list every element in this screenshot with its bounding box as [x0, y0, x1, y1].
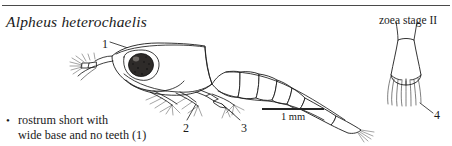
pereiopod-shaft [196, 92, 214, 101]
pereiopod-shaft-b [200, 90, 218, 99]
pereiopod-dactyl [214, 101, 226, 108]
caption-line-2: wide base and no teeth (1) [18, 128, 146, 143]
pereiopod-joint-1 [206, 94, 210, 96]
leader-line-3 [222, 104, 240, 120]
telson-inset-plate [391, 39, 421, 86]
top-divider-rule [2, 5, 450, 6]
carapace-dorsal-ridge [116, 45, 205, 54]
carapace-group [112, 43, 212, 95]
caudal-setae [358, 130, 374, 142]
maxilliped-base-plate [126, 80, 184, 91]
leader-line-2 [187, 104, 196, 120]
maxilliped-1-setae [146, 95, 180, 115]
compound-eye [129, 54, 154, 77]
exopod-setae [226, 105, 244, 115]
rostrum-base-lower [96, 61, 113, 66]
telson-inset-group [388, 22, 421, 106]
maxilliped-2-shaft-b [180, 92, 196, 102]
abdomen-somite-5 [287, 88, 305, 109]
compound-eye-group [124, 50, 159, 80]
maxilliped-2-setae [176, 98, 202, 116]
maxilliped-1-shaft-b [154, 91, 177, 104]
maxilliped-2-shaft [176, 93, 198, 106]
antennule-segment-2 [81, 63, 89, 68]
leader-line-1 [110, 42, 168, 52]
bullet-glyph: • [6, 113, 18, 128]
caption-line-1: rostrum short with [18, 113, 146, 128]
abdomen-somite-2 [238, 72, 259, 99]
leader-line-4 [420, 103, 433, 113]
antennal-scale [78, 66, 95, 76]
eye-socket [124, 50, 159, 80]
scale-bar: 1 mm [262, 108, 324, 123]
pereiopod-setae [222, 108, 234, 118]
scale-bar-label: 1 mm [262, 110, 324, 123]
larval-stage-label: zoea stage II [379, 14, 437, 27]
abdomen-group [212, 71, 374, 142]
abdomen-somite-4 [272, 80, 292, 104]
figure-root: Alpheus heterochaelis zoea stage II [0, 0, 452, 146]
telson-lobe-right [410, 75, 421, 80]
antennal-setae [70, 53, 95, 74]
telson-lobe-left [391, 75, 402, 80]
eye-stipple [132, 56, 149, 74]
rostrum-and-antennae-group [70, 53, 113, 80]
abdomen-somite-3 [256, 74, 277, 100]
telson-main [331, 116, 361, 133]
abdomen-somite-1 [212, 71, 240, 97]
maxilliped-1-shaft [150, 92, 172, 105]
caption-bullet-item: •rostrum short withwide base and no teet… [6, 113, 146, 143]
rostrum [95, 56, 112, 61]
callout-label-3: 3 [241, 122, 247, 134]
pereiopod-joint-2 [214, 99, 218, 101]
species-name-heading: Alpheus heterochaelis [6, 13, 147, 30]
antennule-segment-1 [88, 62, 96, 68]
callout-label-2: 2 [183, 122, 189, 134]
callout-label-1: 1 [102, 38, 108, 50]
carapace-ventral-margin [124, 74, 212, 92]
telson-marginal-setae [388, 76, 421, 106]
carapace-outline [112, 43, 212, 95]
antennal-scale-inner [81, 68, 96, 80]
carapace-posterior-margin [205, 47, 212, 84]
maxilliped-base-inner [130, 84, 167, 92]
caption-text: rostrum short withwide base and no teeth… [18, 113, 146, 143]
exopod-shaft [212, 94, 234, 105]
callout-label-4: 4 [434, 109, 440, 121]
eye-highlight [133, 57, 139, 62]
